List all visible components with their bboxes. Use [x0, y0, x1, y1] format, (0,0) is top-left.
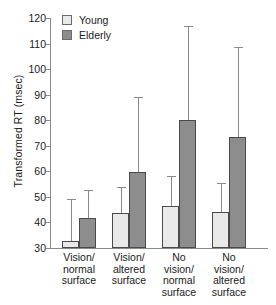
- error-bar-cap-young-group-1: [67, 199, 76, 200]
- error-bar-cap-young-group-2: [117, 187, 126, 188]
- y-axis-tick-label: 30: [22, 243, 46, 253]
- legend-item-young: Young: [62, 13, 111, 27]
- y-axis-tick-label: 100: [22, 64, 46, 74]
- bar-young-group-2: [112, 213, 129, 248]
- x-axis-label-line: altered: [201, 275, 257, 287]
- error-bar-cap-young-group-4: [217, 183, 226, 184]
- x-axis-label-line: Vision/: [51, 252, 107, 264]
- x-axis-label-line: normal: [151, 275, 207, 287]
- error-bar-stem-elderly-group-3: [188, 26, 189, 120]
- y-axis-tick-mark: [46, 222, 50, 223]
- y-axis-tick-label: 110: [22, 39, 46, 49]
- x-axis-group-label-4: Novision/alteredsurface: [201, 252, 257, 298]
- bar-elderly-group-4: [229, 137, 246, 248]
- y-axis-tick-label: 40: [22, 217, 46, 227]
- y-axis-tick-mark: [46, 69, 50, 70]
- y-axis-tick-labels: 30405060708090100110120: [12, 0, 46, 305]
- error-bar-cap-elderly-group-1: [84, 190, 93, 191]
- error-bar-cap-elderly-group-3: [184, 26, 193, 27]
- x-axis-label-line: No: [151, 252, 207, 264]
- y-axis-tick-label: 70: [22, 141, 46, 151]
- error-bar-stem-young-group-2: [121, 187, 122, 213]
- y-axis-tick-label: 90: [22, 90, 46, 100]
- bar-elderly-group-1: [79, 218, 96, 248]
- error-bar-cap-elderly-group-4: [234, 47, 243, 48]
- chart-legend: Young Elderly: [62, 13, 111, 43]
- legend-label-young: Young: [79, 14, 108, 26]
- legend-label-elderly: Elderly: [79, 29, 111, 41]
- y-axis-tick-mark: [46, 18, 50, 19]
- error-bar-cap-young-group-3: [167, 176, 176, 177]
- y-axis-tick-label: 80: [22, 115, 46, 125]
- x-axis-label-line: surface: [201, 287, 257, 299]
- error-bar-stem-elderly-group-2: [138, 97, 139, 172]
- error-bar-stem-young-group-1: [71, 199, 72, 241]
- y-axis-tick-mark: [46, 197, 50, 198]
- y-axis-tick-mark: [46, 44, 50, 45]
- y-axis-tick-label: 120: [22, 13, 46, 23]
- chart-figure: Transformed RT (msec) 304050607080901001…: [0, 0, 276, 305]
- error-bar-stem-young-group-3: [171, 176, 172, 206]
- error-bar-stem-young-group-4: [221, 183, 222, 212]
- y-axis-tick-mark: [46, 146, 50, 147]
- y-axis-tick-mark: [46, 120, 50, 121]
- x-axis-group-label-2: Vision/alteredsurface: [101, 252, 157, 287]
- bar-young-group-4: [212, 212, 229, 248]
- y-axis-tick-label: 60: [22, 166, 46, 176]
- bar-young-group-3: [162, 206, 179, 248]
- y-axis-line: [50, 18, 51, 248]
- bar-young-group-1: [62, 241, 79, 248]
- error-bar-stem-elderly-group-4: [238, 47, 239, 137]
- error-bar-cap-elderly-group-2: [134, 97, 143, 98]
- y-axis-tick-mark: [46, 95, 50, 96]
- bar-elderly-group-3: [179, 120, 196, 248]
- legend-swatch-elderly-icon: [62, 30, 72, 40]
- y-axis-tick-label: 50: [22, 192, 46, 202]
- x-axis-label-line: surface: [101, 275, 157, 287]
- x-axis-line: [50, 248, 268, 249]
- x-axis-group-label-1: Vision/normalsurface: [51, 252, 107, 287]
- error-bar-stem-elderly-group-1: [88, 190, 89, 218]
- bar-elderly-group-2: [129, 172, 146, 248]
- y-axis-tick-mark: [46, 248, 50, 249]
- legend-swatch-young-icon: [62, 15, 72, 25]
- x-axis-label-line: No: [201, 252, 257, 264]
- legend-item-elderly: Elderly: [62, 28, 111, 42]
- x-axis-label-line: surface: [151, 287, 207, 299]
- plot-area: [50, 18, 268, 248]
- x-axis-label-line: Vision/: [101, 252, 157, 264]
- y-axis-tick-mark: [46, 171, 50, 172]
- x-axis-group-label-3: Novision/normalsurface: [151, 252, 207, 298]
- x-axis-label-line: surface: [51, 275, 107, 287]
